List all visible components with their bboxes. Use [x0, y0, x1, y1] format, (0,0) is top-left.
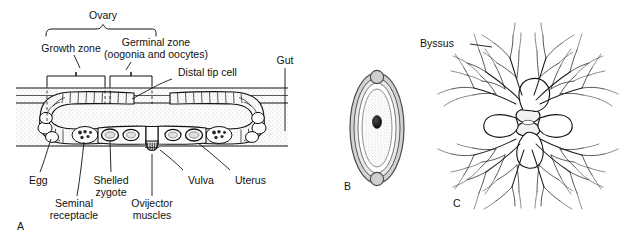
germinal-zone-label-line1: Germinal zone — [122, 36, 190, 48]
distal-tip-cell-label: Distal tip cell — [178, 66, 237, 78]
vulva-ovijector — [145, 127, 159, 151]
panel-a-label: A — [17, 220, 24, 232]
ovijector-muscles-label-line2: muscles — [133, 209, 172, 221]
vulva-label: Vulva — [188, 174, 214, 186]
shelled-zygote-label-line2: zygote — [96, 186, 127, 198]
polar-knob-bottom — [370, 172, 383, 185]
panel-b-label: B — [344, 180, 351, 192]
panel-c: Byssus C — [420, 23, 618, 209]
gut-label: Gut — [277, 54, 294, 66]
figure-root: Ovary Growth zone Germinal — [0, 0, 640, 237]
byssus-label: Byssus — [420, 37, 454, 49]
uterus-label: Uterus — [235, 174, 266, 186]
label-leaders-lower — [40, 139, 230, 196]
ovary-label: Ovary — [89, 9, 118, 21]
panel-b: B — [344, 70, 404, 192]
growth-zone-label: Growth zone — [41, 42, 101, 54]
ovijector-muscles-label-line1: Ovijector — [131, 197, 173, 209]
seminal-receptacle — [72, 127, 98, 144]
seminal-receptacle-label-line2: receptacle — [50, 209, 99, 221]
seminal-receptacle-label-line1: Seminal — [55, 197, 93, 209]
nucleus — [372, 116, 381, 129]
polar-knob-top — [370, 70, 383, 83]
egg-label: Egg — [29, 174, 48, 186]
panel-c-label: C — [453, 197, 461, 209]
ovary-brace — [46, 25, 156, 37]
byssus-leader — [470, 44, 492, 47]
anatomy-figure: Ovary Growth zone Germinal — [0, 0, 640, 237]
shelled-zygote-label-line1: Shelled — [93, 174, 128, 186]
germinal-zone-label-line2: (oogonia and oocytes) — [104, 48, 208, 60]
panel-a: Ovary Growth zone Germinal — [16, 9, 294, 232]
seminal-receptacle-right — [206, 127, 232, 144]
